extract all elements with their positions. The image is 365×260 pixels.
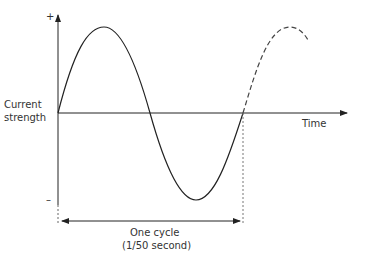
y-axis-label-1: Current xyxy=(4,99,42,111)
cycle-sublabel: (1/50 second) xyxy=(122,240,191,252)
y-axis-label-2: strength xyxy=(4,112,46,124)
minus-sign: – xyxy=(46,194,51,206)
ac-waveform-diagram xyxy=(0,0,365,260)
plus-sign: + xyxy=(46,11,54,23)
waveform-dashed xyxy=(243,27,308,113)
cycle-label: One cycle xyxy=(130,227,179,239)
x-axis-label: Time xyxy=(302,118,326,130)
